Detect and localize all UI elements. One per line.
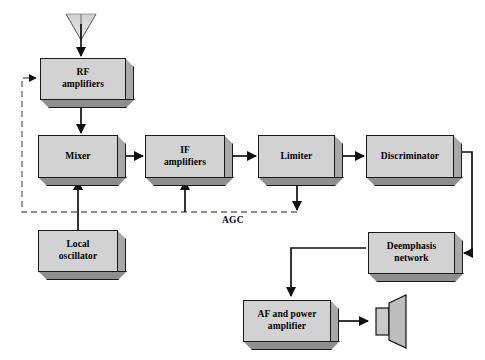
block-label-mixer: Mixer xyxy=(62,151,93,163)
block-bottom-face xyxy=(368,273,464,282)
block-bottom-face xyxy=(145,177,234,186)
block-lim: Limiter xyxy=(258,135,335,178)
block-bottom-face xyxy=(258,177,344,186)
block-lo: Localoscillator xyxy=(38,230,118,272)
block-disc: Discriminator xyxy=(366,135,454,178)
block-front-face: AF and poweramplifier xyxy=(243,300,331,342)
block-bottom-face xyxy=(38,177,127,186)
block-mixer: Mixer xyxy=(38,135,118,178)
block-bottom-face xyxy=(40,99,135,108)
block-deem: Deemphasisnetwork xyxy=(368,232,455,274)
block-bottom-face xyxy=(366,177,463,186)
block-label-deem: Deemphasisnetwork xyxy=(384,241,440,265)
block-diagram-canvas: RFamplifiersMixerIFamplifiersLimiterDisc… xyxy=(0,0,485,360)
block-front-face: Discriminator xyxy=(366,135,454,178)
agc-label: AGC xyxy=(222,215,244,225)
block-label-lim: Limiter xyxy=(278,151,316,163)
block-bottom-face xyxy=(243,341,340,350)
block-label-af: AF and poweramplifier xyxy=(255,309,320,333)
block-front-face: Localoscillator xyxy=(38,230,118,272)
block-if: IFamplifiers xyxy=(145,135,225,178)
block-af: AF and poweramplifier xyxy=(243,300,331,342)
block-label-if: IFamplifiers xyxy=(161,145,209,169)
block-label-lo: Localoscillator xyxy=(56,239,100,263)
connector-deemphasis-to-af xyxy=(291,248,366,296)
block-label-rf: RFamplifiers xyxy=(59,67,107,91)
block-bottom-face xyxy=(38,271,127,280)
block-front-face: Limiter xyxy=(258,135,335,178)
block-rf: RFamplifiers xyxy=(40,58,126,100)
block-front-face: Deemphasisnetwork xyxy=(368,232,455,274)
block-front-face: RFamplifiers xyxy=(40,58,126,100)
speaker-icon xyxy=(376,295,406,348)
block-front-face: Mixer xyxy=(38,135,118,178)
block-front-face: IFamplifiers xyxy=(145,135,225,178)
block-label-disc: Discriminator xyxy=(378,151,442,163)
